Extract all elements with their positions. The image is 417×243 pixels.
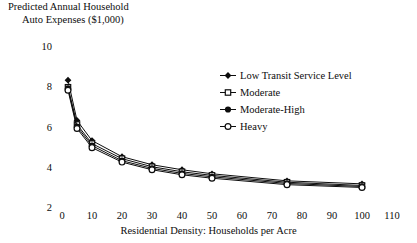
- open-circle-icon: [359, 185, 365, 191]
- open-circle-icon: [225, 124, 231, 130]
- open-circle-icon: [119, 159, 125, 165]
- legend-label: Moderate: [240, 87, 280, 99]
- filled-diamond-icon: [65, 77, 72, 84]
- legend-label: Moderate-High: [240, 104, 305, 116]
- filled-diamond-icon: [225, 72, 232, 79]
- legend-label: Heavy: [240, 121, 267, 133]
- open-circle-icon: [209, 175, 215, 181]
- legend-marker: [218, 84, 240, 101]
- open-circle-icon: [74, 126, 80, 132]
- legend-item-1: Low Transit Service Level: [218, 67, 352, 84]
- plot-area: [0, 0, 417, 243]
- open-circle-icon: [149, 167, 155, 173]
- series-canvas: [0, 0, 417, 243]
- filled-circle-icon: [225, 106, 231, 112]
- open-square-icon: [225, 90, 230, 95]
- open-circle-icon: [65, 87, 71, 93]
- open-circle-icon: [284, 182, 290, 188]
- open-circle-icon: [179, 172, 185, 178]
- legend-marker: [218, 67, 240, 84]
- legend-item-4: Heavy: [218, 118, 352, 135]
- x-axis-title: Residential Density: Households per Acre: [0, 225, 417, 237]
- open-circle-icon: [89, 145, 95, 151]
- chart-legend: Low Transit Service LevelModerateModerat…: [218, 67, 352, 135]
- chart-figure: Predicted Annual Household Auto Expenses…: [0, 0, 417, 243]
- legend-item-2: Moderate: [218, 84, 352, 101]
- legend-marker: [218, 118, 240, 135]
- legend-item-3: Moderate-High: [218, 101, 352, 118]
- legend-marker: [218, 101, 240, 118]
- legend-label: Low Transit Service Level: [240, 70, 352, 82]
